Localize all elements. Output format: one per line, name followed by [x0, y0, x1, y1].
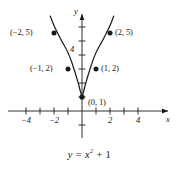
plot-canvas — [0, 0, 179, 170]
y-tick-label-4: 4 — [70, 44, 74, 54]
point-0-1 — [79, 94, 84, 99]
equation-constant: 1 — [106, 149, 112, 160]
x-tick-label-2: 2 — [108, 115, 112, 125]
point-neg2-5 — [52, 31, 57, 36]
parabola-figure: (−2, 5) (2, 5) (−1, 2) (1, 2) (0, 1) −4 … — [0, 0, 179, 170]
y-axis-label: y — [74, 6, 78, 16]
x-tick-label-4: 4 — [136, 115, 140, 125]
x-tick-label-neg4: −4 — [21, 115, 31, 125]
point-label-0-1: (0, 1) — [88, 97, 106, 107]
x-axis-arrowhead — [162, 109, 168, 114]
point-label-neg2-5: (−2, 5) — [10, 27, 33, 37]
point-label-neg1-2: (−1, 2) — [30, 63, 53, 73]
point-label-2-5: (2, 5) — [115, 27, 133, 37]
y-axis-arrowhead — [80, 14, 85, 20]
equation-caption: y = x2 + 1 — [0, 147, 179, 160]
point-label-1-2: (1, 2) — [101, 63, 119, 73]
x-axis-label: x — [166, 114, 170, 124]
point-1-2 — [94, 67, 99, 72]
x-tick-label-neg2: −2 — [49, 115, 59, 125]
point-2-5 — [108, 31, 113, 36]
point-neg1-2 — [66, 67, 71, 72]
